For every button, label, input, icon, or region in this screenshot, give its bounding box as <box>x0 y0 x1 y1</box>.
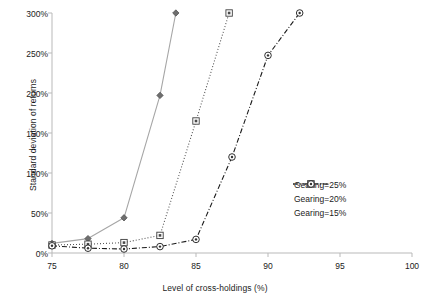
data-point-marker-core <box>195 238 197 240</box>
data-point-marker-core <box>195 120 198 123</box>
series-line <box>52 13 176 243</box>
data-point-marker-core <box>51 245 53 247</box>
data-point-marker <box>121 215 127 221</box>
series-gearing-15 <box>49 10 303 253</box>
series-gearing-20 <box>49 10 233 248</box>
data-point-marker <box>173 10 179 16</box>
chart-container: Standard deviation of returns Level of c… <box>0 0 430 300</box>
data-point-marker-core <box>159 234 162 237</box>
legend-label-2: Gearing=15% <box>292 208 346 218</box>
data-point-marker-core <box>123 241 126 244</box>
data-point-marker <box>157 92 163 98</box>
chart-legend: Gearing=25% Gearing=20% Gearing=15% <box>292 178 424 220</box>
data-point-marker-core <box>123 248 125 250</box>
series-layer <box>49 10 303 253</box>
data-point-marker-core <box>267 54 269 56</box>
data-point-marker-core <box>159 245 161 247</box>
series-line <box>52 13 300 249</box>
axes-layer <box>48 13 412 257</box>
data-point-marker-core <box>228 12 231 15</box>
data-point-marker-core <box>231 156 233 158</box>
series-gearing-25 <box>49 10 179 247</box>
legend-item-1: Gearing=20% <box>292 192 424 206</box>
legend-swatch-gearing-15 <box>292 178 330 190</box>
legend-label-1: Gearing=20% <box>292 194 346 204</box>
series-line <box>52 13 229 245</box>
plot-area <box>0 0 430 300</box>
data-point-marker-core <box>298 12 300 14</box>
legend-item-2: Gearing=15% <box>292 206 424 220</box>
data-point-marker-core <box>87 247 89 249</box>
